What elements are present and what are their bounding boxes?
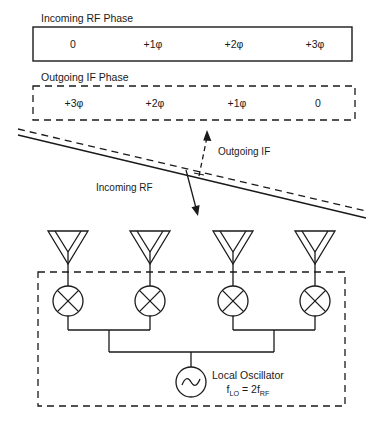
lo-distribution-network	[68, 330, 315, 367]
outgoing-if-phase-heading: Outgoing IF Phase	[41, 71, 129, 83]
array-element-3	[213, 231, 253, 330]
antenna-icon	[48, 231, 88, 286]
if-phase-cell-3: 0	[315, 97, 321, 109]
mixer-icon	[53, 286, 83, 316]
rf-phase-cell-3: +3φ	[306, 38, 325, 50]
if-phase-cell-1: +2φ	[146, 97, 165, 109]
incoming-rf-wavefront-line	[18, 135, 366, 218]
rf-phase-cell-1: +1φ	[144, 38, 163, 50]
mixer-icon	[300, 286, 330, 316]
if-phase-cell-0: +3φ	[65, 97, 84, 109]
array-element-1	[48, 231, 88, 330]
mixer-icon	[218, 286, 248, 316]
rf-phase-cell-0: 0	[70, 38, 76, 50]
local-oscillator-label: Local Oscillator	[212, 369, 284, 381]
incoming-rf-phase-box	[33, 27, 352, 61]
if-phase-cell-2: +1φ	[228, 97, 247, 109]
diagram-canvas: Incoming RF Phase 0 +1φ +2φ +3φ Outgoing…	[0, 0, 370, 423]
phased-array-figure: Incoming RF Phase 0 +1φ +2φ +3φ Outgoing…	[0, 0, 370, 423]
outgoing-if-arrow-shaft	[199, 137, 207, 176]
array-element-2	[130, 231, 170, 330]
outgoing-if-label: Outgoing IF	[218, 146, 270, 157]
outgoing-if-arrow-head	[203, 130, 211, 141]
incoming-rf-label: Incoming RF	[96, 182, 153, 193]
outgoing-if-wavefront-line	[18, 129, 366, 211]
antenna-icon	[130, 231, 170, 286]
sine-source-icon	[176, 367, 206, 397]
antenna-icon	[295, 231, 335, 286]
array-element-4	[295, 231, 335, 330]
local-oscillator-formula: fLO = 2fRF	[227, 383, 270, 398]
incoming-rf-phase-heading: Incoming RF Phase	[41, 12, 133, 24]
rf-phase-cell-2: +2φ	[225, 38, 244, 50]
antenna-icon	[213, 231, 253, 286]
receiver-enclosure	[38, 272, 345, 406]
incoming-rf-arrow-head	[192, 205, 200, 216]
mixer-icon	[135, 286, 165, 316]
local-oscillator: Local Oscillator fLO = 2fRF	[176, 367, 284, 398]
